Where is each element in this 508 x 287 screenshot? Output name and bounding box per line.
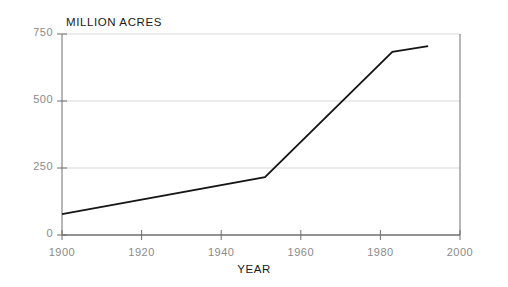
x-tick-label-1920: 1920 <box>120 246 164 258</box>
data-series-line <box>62 46 428 214</box>
y-tick-label-250: 250 <box>9 160 53 172</box>
x-axis-title: YEAR <box>0 263 508 275</box>
y-axis-title: MILLION ACRES <box>66 16 162 28</box>
chart-figure: MILLION ACRES YEAR 0250500750 1900192019… <box>0 0 508 287</box>
y-tick-label-750: 750 <box>9 26 53 38</box>
y-tick-label-500: 500 <box>9 93 53 105</box>
x-tick-label-1900: 1900 <box>40 246 84 258</box>
x-tick-label-2000: 2000 <box>438 246 482 258</box>
x-tick-label-1960: 1960 <box>279 246 323 258</box>
gridlines-group <box>62 34 460 235</box>
x-tick-label-1940: 1940 <box>199 246 243 258</box>
y-tick-label-0: 0 <box>9 227 53 239</box>
axes-group <box>62 34 460 235</box>
line-chart-plot <box>0 0 508 287</box>
tick-marks-group <box>57 34 460 240</box>
x-tick-label-1980: 1980 <box>358 246 402 258</box>
data-line-group <box>62 46 428 214</box>
